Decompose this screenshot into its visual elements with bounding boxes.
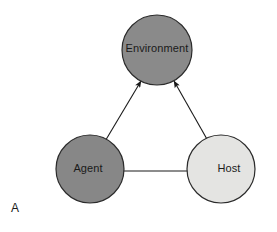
- node-environment: Environment: [122, 15, 192, 85]
- host-label: Host: [217, 162, 240, 174]
- figure-panel-a: Environment Agent Host A: [0, 0, 277, 232]
- edge-environment-agent: [101, 81, 141, 148]
- panel-label: A: [11, 201, 19, 215]
- agent-label: Agent: [73, 162, 102, 174]
- agent-environment-host-diagram: Environment Agent Host A: [0, 0, 277, 232]
- environment-label: Environment: [126, 42, 189, 54]
- node-host: Host: [187, 135, 255, 203]
- node-agent: Agent: [56, 135, 124, 203]
